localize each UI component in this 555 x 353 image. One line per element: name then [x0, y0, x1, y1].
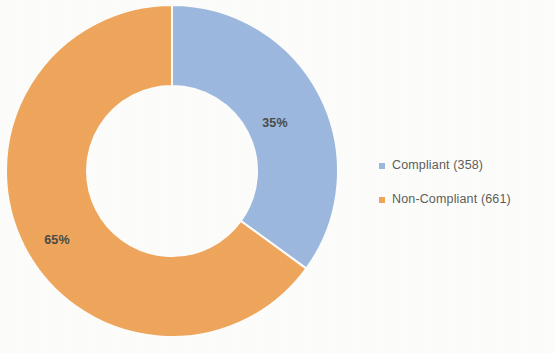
- legend-item-non-compliant[interactable]: Non-Compliant (661): [379, 182, 555, 216]
- donut-chart-figure: 35% 65% Compliant (358) Non-Compliant (6…: [0, 0, 555, 353]
- slice-percent-label-non-compliant: 65%: [44, 233, 70, 247]
- legend-color-swatch-compliant: [379, 163, 385, 169]
- legend-label-non-compliant: Non-Compliant (661): [392, 192, 511, 206]
- legend-label-compliant: Compliant (358): [392, 158, 483, 172]
- chart-legend: Compliant (358) Non-Compliant (661): [379, 148, 555, 216]
- donut-slice-compliant[interactable]: [172, 5, 338, 269]
- slice-percent-label-compliant: 35%: [262, 116, 288, 130]
- legend-item-compliant[interactable]: Compliant (358): [379, 148, 555, 182]
- legend-color-swatch-non-compliant: [379, 197, 385, 203]
